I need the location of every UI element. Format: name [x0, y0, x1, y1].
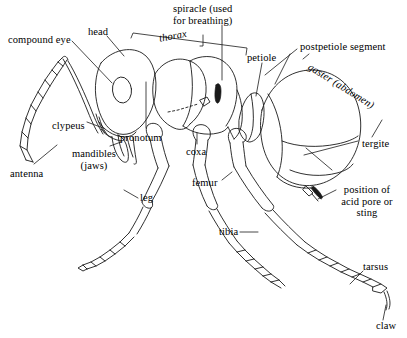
petiole-shape: [239, 93, 264, 142]
label-leg: leg: [140, 192, 153, 204]
label-petiole: petiole: [247, 52, 276, 64]
label-claw: claw: [376, 320, 396, 332]
label-femur: femur: [192, 177, 218, 189]
label-antenna: antenna: [10, 168, 43, 180]
foreleg-shape: [78, 123, 169, 271]
label-tergite: tergite: [362, 138, 389, 150]
label-pronotum: pronotum: [120, 132, 162, 144]
label-clypeus: clypeus: [52, 120, 85, 132]
antenna-shape: [20, 56, 103, 162]
label-mandibles: mandibles (jaws): [62, 148, 126, 171]
label-head: head: [88, 26, 108, 38]
label-acid-pore: position of acid pore or sting: [330, 184, 404, 219]
label-compound-eye: compound eye: [8, 34, 71, 46]
label-tibia: tibia: [219, 226, 238, 238]
thorax-shape: [153, 57, 243, 140]
hindleg-shape: [228, 128, 390, 310]
label-coxa: coxa: [186, 146, 206, 158]
ant-anatomy-diagram: compound eye head thorax spiracle (used …: [0, 0, 407, 338]
label-postpetiole-segment: postpetiole segment: [300, 41, 386, 53]
label-tarsus: tarsus: [363, 261, 388, 273]
label-spiracle: spiracle (used for breathing): [173, 3, 232, 26]
midleg-shape: [193, 125, 285, 288]
leader-lines: [34, 25, 386, 320]
